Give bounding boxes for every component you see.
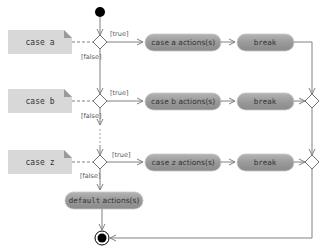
ellipsis-dots [99,129,100,142]
case-a-note-label: case a [26,38,55,47]
decision-b [93,94,107,108]
false-guard-a: [false] [81,53,102,61]
default-action-label: default actions(s) [69,196,140,205]
break-z-label: break [254,158,277,167]
true-guard-z: [true] [112,151,130,159]
case-b-note-label: case b [26,97,55,106]
activity-diagram: case a [true] case a actions(s) break [f… [0,0,325,249]
break-b-label: break [254,97,277,106]
false-guard-b: [false] [81,112,102,120]
decision-z [93,155,107,169]
merge-b [305,94,319,108]
case-a-action-label: case a actions(s) [151,38,215,47]
true-guard-b: [true] [110,89,128,97]
case-z-action-label: case z actions(s) [151,158,215,167]
initial-node [95,7,105,17]
final-node [95,231,109,245]
decision-a [93,35,107,49]
false-guard-z: [false] [80,172,101,180]
merge-z [305,155,319,169]
true-guard-a: [true] [110,30,128,38]
case-z-note-label: case z [26,158,55,167]
break-a-label: break [254,38,277,47]
case-b-action-label: case b actions(s) [151,97,215,106]
